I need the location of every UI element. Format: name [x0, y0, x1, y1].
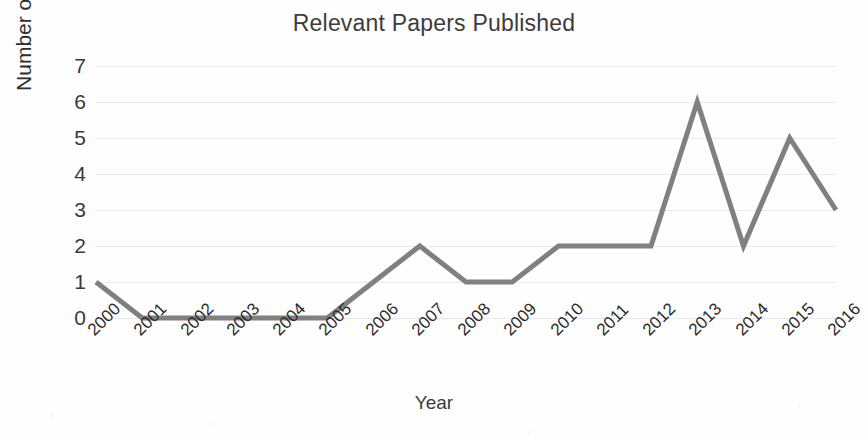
- y-axis-tick-labels: 01234567: [52, 66, 86, 318]
- y-tick-label: 0: [52, 306, 86, 330]
- plot-area: [96, 66, 836, 318]
- y-tick-label: 1: [52, 270, 86, 294]
- chart-title: Relevant Papers Published: [0, 10, 868, 37]
- x-axis-title: Year: [0, 392, 868, 414]
- y-tick-label: 5: [52, 126, 86, 150]
- y-tick-label: 3: [52, 198, 86, 222]
- y-tick-label: 4: [52, 162, 86, 186]
- x-axis-tick-labels: 2000200120022003200420052006200720082009…: [96, 318, 836, 388]
- series-line: [96, 102, 836, 318]
- y-tick-label: 7: [52, 54, 86, 78]
- y-tick-label: 6: [52, 90, 86, 114]
- y-axis-title: Number of papers published: [12, 0, 46, 94]
- series-line-chart: [96, 66, 836, 318]
- chart-figure: Relevant Papers Published Number of pape…: [0, 0, 868, 437]
- y-tick-label: 2: [52, 234, 86, 258]
